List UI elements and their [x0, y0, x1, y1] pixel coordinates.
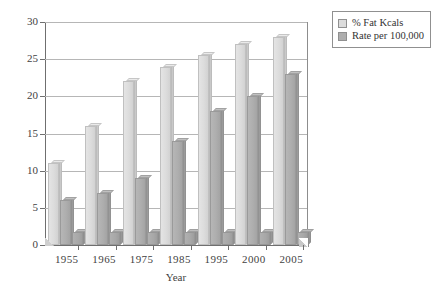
bar-side [296, 71, 299, 245]
bar-face [72, 232, 83, 245]
x-tick-mark [266, 245, 267, 250]
gridline [45, 134, 307, 135]
y-tick-label: 25 [4, 53, 38, 64]
bar-face [147, 232, 158, 245]
y-tick-label: 20 [4, 90, 38, 101]
bar-2005-series1 [273, 37, 284, 245]
bar-face [235, 44, 246, 245]
gridline [45, 96, 307, 97]
x-tick-mark [153, 245, 154, 250]
bar-face [135, 178, 146, 245]
bar-2000-series1 [235, 44, 246, 245]
bar-2000-series2 [247, 96, 258, 245]
bar-1985-series2 [172, 141, 183, 245]
bar-1965-series2 [97, 193, 108, 245]
x-tick-mark [303, 245, 304, 250]
plot-floor-right-wedge [299, 238, 309, 247]
legend-swatch-icon [338, 32, 347, 41]
x-tick-mark [191, 245, 192, 250]
bar-1985-series3 [184, 232, 195, 245]
bar-side [183, 138, 186, 245]
bar-face [48, 163, 59, 245]
bar-chart: 051015202530 195519651975198519952000200… [0, 0, 447, 293]
bar-face [259, 232, 270, 245]
bar-1975-series1 [123, 81, 134, 245]
legend-swatch-icon [338, 19, 347, 28]
bar-1975-series2 [135, 178, 146, 245]
bar-face [60, 200, 71, 245]
bar-face [198, 55, 209, 245]
legend-label: % Fat Kcals [352, 17, 403, 29]
bar-1955-series3 [72, 232, 83, 245]
x-tick-mark [116, 245, 117, 250]
bar-2000-series3 [259, 232, 270, 245]
bar-face [273, 37, 284, 245]
bar-1965-series1 [85, 126, 96, 245]
bar-face [184, 232, 195, 245]
plot-area [45, 22, 307, 245]
bar-2005-series2 [285, 74, 296, 245]
x-axis-line [45, 245, 307, 246]
gridline [45, 22, 307, 23]
bar-face [97, 193, 108, 245]
gridline [45, 59, 307, 60]
bar-face [85, 126, 96, 245]
bar-face [210, 111, 221, 245]
bar-face [109, 232, 120, 245]
x-tick-mark [228, 245, 229, 250]
y-tick-label: 15 [4, 128, 38, 139]
bar-1955-series1 [48, 163, 59, 245]
legend-label: Rate per 100,000 [352, 30, 424, 42]
legend-item: Rate per 100,000 [338, 30, 424, 42]
bar-face [247, 96, 258, 245]
bar-1965-series3 [109, 232, 120, 245]
bar-1995-series3 [222, 232, 233, 245]
y-tick-label: 0 [4, 239, 38, 250]
bar-1975-series3 [147, 232, 158, 245]
bar-1955-series2 [60, 200, 71, 245]
bar-1995-series2 [210, 111, 221, 245]
x-tick-mark [78, 245, 79, 250]
bar-side [258, 93, 261, 245]
bar-face [172, 141, 183, 245]
y-tick-label: 30 [4, 16, 38, 27]
bar-face [123, 81, 134, 245]
bar-face [285, 74, 296, 245]
bar-face [222, 232, 233, 245]
y-tick-label: 10 [4, 165, 38, 176]
y-tick-label: 5 [4, 202, 38, 213]
x-tick-label-2005: 2005 [267, 253, 315, 265]
bar-side [221, 108, 224, 245]
legend-item: % Fat Kcals [338, 17, 424, 29]
x-axis-title: Year [45, 271, 307, 283]
bar-1995-series1 [198, 55, 209, 245]
plot-right-border [307, 22, 308, 245]
plot-floor-left-wedge [45, 238, 54, 246]
bar-1985-series1 [160, 67, 171, 245]
chart-legend: % Fat KcalsRate per 100,000 [332, 11, 431, 48]
bar-face [160, 67, 171, 245]
